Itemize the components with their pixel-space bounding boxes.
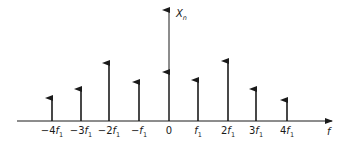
tick-label-4f1: 4f1 xyxy=(280,125,294,139)
tick-label-0: 0 xyxy=(166,125,172,136)
x-axis-label: f xyxy=(327,126,332,137)
tick-label-f1: f1 xyxy=(194,125,202,139)
tick-label--3f1: −3f1 xyxy=(70,125,92,139)
tick-labels: −4f1−3f1−2f1−f10f12f13f14f1 xyxy=(41,125,294,139)
tick-label-3f1: 3f1 xyxy=(249,125,263,139)
tick-label--2f1: −2f1 xyxy=(98,125,120,139)
tick-label-2f1: 2f1 xyxy=(221,125,235,139)
tick-label--4f1: −4f1 xyxy=(41,125,63,139)
tick-label--f1: −f1 xyxy=(131,125,147,139)
line-spectrum-diagram: Xn f −4f1−3f1−2f1−f10f12f13f14f1 xyxy=(0,0,347,149)
y-axis-label: Xn xyxy=(175,8,187,22)
